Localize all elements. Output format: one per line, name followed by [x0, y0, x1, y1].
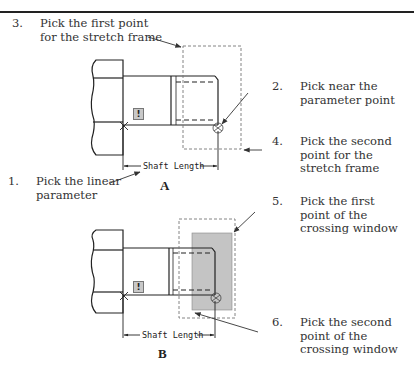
callout-step-5: 5.Pick the first point of the crossing w… — [286, 195, 398, 236]
panel-a-stretch-frame — [183, 46, 241, 149]
callout-line: crossing window — [286, 343, 398, 357]
callout-line: stretch frame — [286, 162, 392, 176]
callout-line: Pick the first point — [40, 16, 148, 30]
callout-number: 6. — [286, 316, 300, 330]
callout-number: 1. — [22, 175, 36, 189]
callout-number: 2. — [286, 80, 300, 94]
callout-line: point of the — [286, 209, 398, 223]
panel-b-label: B — [158, 346, 167, 362]
callout-line: point of the — [286, 330, 398, 344]
callout-number: 4. — [286, 135, 300, 149]
callout-number: 5. — [286, 195, 300, 209]
panel-a-warning-icon: ! — [133, 108, 144, 120]
panel-b-crossing-window — [192, 233, 232, 310]
callout-line: Pick the second — [300, 134, 392, 148]
callout-step-1: 1.Pick the linear parameter — [22, 175, 121, 202]
callout-line: Pick the second — [300, 315, 392, 329]
panel-b-warning-icon: ! — [133, 281, 144, 293]
panel-a-label: A — [160, 178, 169, 194]
panel-a-bolt — [91, 60, 218, 155]
callout-line: crossing window — [286, 222, 398, 236]
panel-b-dimension-label: Shaft Length — [142, 330, 203, 340]
callout-step-2: 2.Pick near the parameter point — [286, 80, 395, 107]
callout-line: Pick the linear — [36, 174, 121, 188]
callout-step-6: 6.Pick the second point of the crossing … — [286, 316, 398, 357]
callout-line: Pick near the — [300, 79, 378, 93]
callout-number: 3. — [26, 17, 40, 31]
panel-a-dimension-label: Shaft Length — [143, 161, 204, 171]
callout-step-4: 4.Pick the second point for the stretch … — [286, 135, 392, 176]
callout-line: parameter point — [286, 94, 395, 108]
callout-line: Pick the first — [300, 194, 375, 208]
callout-line: parameter — [22, 189, 121, 203]
callout-step-3: 3.Pick the first point for the stretch f… — [26, 17, 162, 44]
callout-line: for the stretch frame — [26, 31, 162, 45]
callout-line: point for the — [286, 149, 392, 163]
